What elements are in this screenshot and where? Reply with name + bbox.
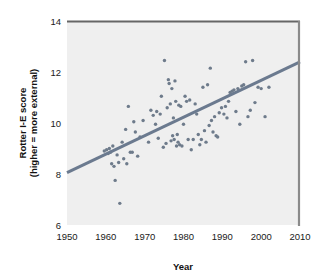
- data-point: [186, 138, 189, 141]
- data-point: [203, 129, 206, 132]
- data-point: [159, 112, 162, 115]
- data-point: [201, 86, 204, 89]
- x-tick-label: 1960: [95, 231, 116, 242]
- data-point: [154, 123, 157, 126]
- data-point: [220, 106, 223, 109]
- y-tick-label: 12: [50, 67, 61, 78]
- data-point: [246, 115, 249, 118]
- data-point: [172, 116, 175, 119]
- data-point: [134, 130, 137, 133]
- y-axis-tick-labels: 68101214: [50, 16, 61, 231]
- data-point: [263, 115, 266, 118]
- data-point: [125, 162, 128, 165]
- data-point: [173, 79, 176, 82]
- data-point: [157, 137, 160, 140]
- data-point: [207, 124, 210, 127]
- data-point: [216, 135, 219, 138]
- data-point: [224, 105, 227, 108]
- data-point: [192, 138, 195, 141]
- scatter-plot: 68101214 1950196019701980199020002010 Ye…: [0, 0, 324, 276]
- data-point: [225, 116, 228, 119]
- data-point: [197, 133, 200, 136]
- data-point: [249, 109, 252, 112]
- y-tick-label: 8: [56, 169, 61, 180]
- data-point: [110, 162, 113, 165]
- data-point: [251, 59, 254, 62]
- x-tick-label: 1970: [134, 231, 155, 242]
- data-point: [209, 66, 212, 69]
- x-tick-label: 2000: [251, 231, 272, 242]
- data-point: [167, 78, 170, 81]
- data-point: [147, 140, 150, 143]
- data-point: [180, 144, 183, 147]
- data-point: [108, 147, 111, 150]
- y-tick-label: 14: [50, 16, 61, 27]
- y-tick-label: 6: [56, 220, 61, 231]
- data-point: [167, 82, 170, 85]
- data-point: [171, 134, 174, 137]
- data-point: [190, 148, 193, 151]
- data-point: [131, 151, 134, 154]
- data-point: [175, 144, 178, 147]
- data-point: [115, 153, 118, 156]
- data-point: [210, 119, 213, 122]
- y-axis-title-line2: (higher = more external): [28, 69, 39, 178]
- data-point: [185, 100, 188, 103]
- data-point: [218, 111, 221, 114]
- data-point: [176, 133, 179, 136]
- data-point: [163, 59, 166, 62]
- data-point: [244, 60, 247, 63]
- data-point: [141, 119, 144, 122]
- data-point: [122, 157, 125, 160]
- x-tick-label: 1990: [212, 231, 233, 242]
- data-point: [170, 87, 173, 90]
- data-point: [162, 146, 165, 149]
- y-tick-label: 10: [50, 118, 61, 129]
- data-point: [169, 102, 172, 105]
- data-point: [179, 105, 182, 108]
- data-point: [169, 139, 172, 142]
- data-point: [213, 115, 216, 118]
- data-point: [127, 105, 130, 108]
- data-point: [211, 130, 214, 133]
- data-point: [124, 128, 127, 131]
- data-point: [111, 144, 114, 147]
- data-point: [242, 83, 245, 86]
- data-point: [165, 106, 168, 109]
- data-point: [267, 86, 270, 89]
- data-point: [238, 123, 241, 126]
- x-axis-title: Year: [173, 261, 193, 272]
- data-point: [174, 100, 177, 103]
- x-axis-tick-labels: 1950196019701980199020002010: [56, 231, 310, 242]
- x-tick-label: 2010: [289, 231, 310, 242]
- data-point: [253, 101, 256, 104]
- data-point: [149, 109, 152, 112]
- data-point: [132, 120, 135, 123]
- chart-figure: 68101214 1950196019701980199020002010 Ye…: [0, 0, 324, 276]
- data-point: [234, 110, 237, 113]
- data-point: [118, 202, 121, 205]
- data-point: [113, 179, 116, 182]
- data-point: [204, 140, 207, 143]
- data-point: [120, 140, 123, 143]
- data-point: [182, 123, 185, 126]
- data-point: [160, 95, 163, 98]
- x-tick-label: 1980: [173, 231, 194, 242]
- data-point: [188, 98, 191, 101]
- data-point: [172, 138, 175, 141]
- data-point: [206, 83, 209, 86]
- data-point: [183, 95, 186, 98]
- data-point: [155, 110, 158, 113]
- data-point: [259, 87, 262, 90]
- data-point: [193, 102, 196, 105]
- data-point: [112, 165, 115, 168]
- data-point: [227, 100, 230, 103]
- data-point: [200, 138, 203, 141]
- x-tick-label: 1950: [56, 231, 77, 242]
- y-axis-title-line1: Rotter I-E score: [17, 88, 28, 159]
- data-point: [117, 161, 120, 164]
- data-point: [256, 86, 259, 89]
- data-point: [222, 112, 225, 115]
- data-point: [164, 142, 167, 145]
- data-point: [152, 114, 155, 117]
